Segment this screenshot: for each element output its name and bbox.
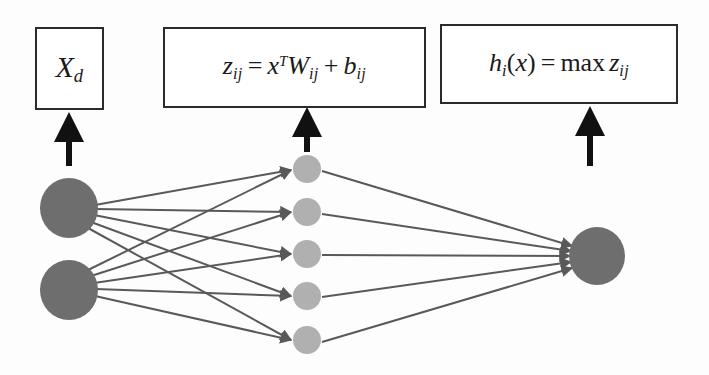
input-symbol-sub: d [74, 65, 84, 86]
output-node-1[interactable] [569, 227, 625, 285]
h-paren-open: ( [507, 48, 516, 77]
h-box-formula: hi(x)=maxzij [489, 50, 629, 79]
input-box: Xd [35, 27, 104, 110]
z-symbol-sub: ij [233, 65, 243, 82]
pointer-arrows [69, 112, 590, 166]
h-z-symbol: z [609, 48, 619, 77]
input-symbol-base: X [55, 50, 73, 83]
input-node-2[interactable] [40, 260, 98, 320]
h-symbol: h [489, 48, 502, 77]
h-box: hi(x)=maxzij [440, 24, 678, 104]
edge-in2-h3 [94, 254, 291, 283]
w-symbol-sub: ij [309, 65, 319, 82]
w-symbol: W [287, 51, 309, 80]
h-z-symbol-sub: ij [619, 61, 629, 78]
h-paren-close: ) [527, 48, 536, 77]
h-equals-sign: = [536, 48, 561, 77]
edge-h3-out [322, 255, 570, 256]
edge-h2-out [322, 214, 571, 251]
h-arg-x: x [516, 48, 528, 77]
hidden-node-4[interactable] [293, 282, 321, 310]
z-symbol: z [223, 51, 233, 80]
z-equals-sign: = [243, 51, 268, 80]
input-box-formula: Xd [55, 52, 83, 86]
x-symbol: x [267, 51, 279, 80]
edge-in1-h2 [96, 209, 291, 212]
hidden-node-3[interactable] [293, 240, 321, 268]
edges-input-to-hidden [88, 170, 291, 340]
input-layer [40, 178, 98, 320]
hidden-node-1[interactable] [293, 155, 321, 183]
z-box-formula: zij=xTWij+bij [223, 53, 366, 82]
hidden-node-2[interactable] [293, 198, 321, 226]
max-operator: max [560, 48, 609, 77]
edge-in2-h2 [91, 212, 291, 276]
output-layer [569, 227, 625, 285]
hidden-node-5[interactable] [293, 326, 321, 354]
z-plus-sign: + [319, 51, 344, 80]
edge-in2-h4 [96, 289, 291, 296]
edges-hidden-to-output [322, 171, 572, 342]
figure-canvas: Xd zij=xTWij+bij hi(x)=maxzij [0, 0, 709, 375]
hidden-layer [293, 155, 321, 354]
edge-h1-out [322, 171, 572, 246]
edge-in2-h5 [95, 296, 291, 340]
edge-in1-h1 [95, 170, 291, 205]
b-symbol: b [343, 51, 356, 80]
z-box: zij=xTWij+bij [163, 27, 426, 108]
b-symbol-sub: ij [356, 65, 366, 82]
input-node-1[interactable] [40, 178, 98, 238]
